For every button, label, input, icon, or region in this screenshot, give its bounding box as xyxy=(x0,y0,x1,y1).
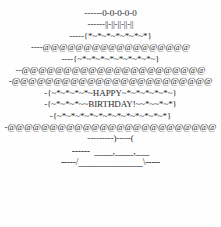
art-line-frosting-4: -@@@@@@@@@@@@@@@@@@@@@@@@@ xyxy=(4,122,217,133)
art-line-happy-message: -{~*~*~*~*~HAPPY~*~*~*~*~*~} xyxy=(4,88,217,99)
art-line-birthday-message: -{~*~*~*~~BIRTHDAY!~~*~~*~*} xyxy=(4,99,217,110)
art-line-icing-top: -----{*~*~*~*~*~*~*} xyxy=(4,31,217,42)
art-line-flames: ------0-0-0-0-0 xyxy=(4,8,217,19)
art-line-icing-2: ----{~*~*~*~*~*~*~*~*~} xyxy=(4,54,217,65)
art-line-plate-gap: ---------)-----( xyxy=(4,133,217,144)
art-line-icing-3: -{~*~*~*~*~*~*~*~*~*~*~*~*} xyxy=(4,111,217,122)
art-line-candles: ------||-||-||-||-|| xyxy=(4,19,217,30)
art-line-base-bottom: -----/______________\----- xyxy=(4,156,217,167)
art-line-frosting-3: -@@@@@@@@@@@@@@@@@@@@@@@@ xyxy=(4,76,217,87)
ascii-art-canvas: ------0-0-0-0-0 ------||-||-||-||-|| ---… xyxy=(0,0,221,227)
art-line-frosting-1: ----@@@@@@@@@@@@@@@@@@ xyxy=(4,42,217,53)
art-line-frosting-2: --@@@@@@@@@@@@@@@@@@@@@@ xyxy=(4,65,217,76)
art-line-base-top: ------ ____,____,___ xyxy=(4,145,217,156)
